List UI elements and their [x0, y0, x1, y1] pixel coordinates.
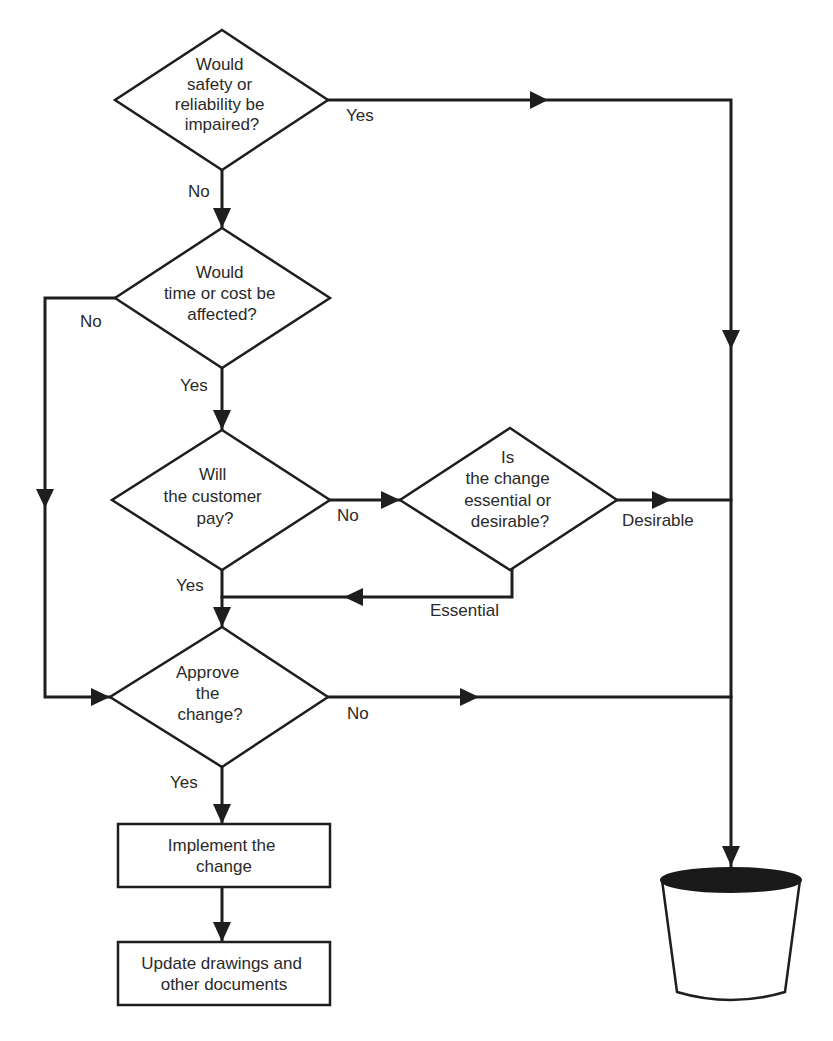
d2-line: time or cost be — [164, 284, 276, 303]
d3b-line: the change — [466, 469, 550, 488]
arrowhead-down — [722, 330, 740, 349]
arrowhead-down — [36, 489, 54, 508]
connector-d3b-essential — [222, 570, 512, 597]
label-d1-yes: Yes — [346, 106, 374, 125]
arrowhead-down — [213, 922, 231, 942]
d2-line: affected? — [187, 305, 257, 324]
label-d2-yes: Yes — [180, 376, 208, 395]
d1-line: safety or — [187, 75, 253, 94]
d3b-line: desirable? — [471, 512, 549, 531]
label-d3-no: No — [337, 506, 359, 525]
d3-line: pay? — [197, 509, 234, 528]
d4-line: the — [196, 684, 220, 703]
d1-line: reliability be — [175, 95, 265, 114]
label-d4-yes: Yes — [170, 773, 198, 792]
d4-line: change? — [177, 705, 242, 724]
d3-line: the customer — [164, 487, 263, 506]
flowchart: Would safety or reliability be impaired?… — [0, 0, 833, 1041]
arrowhead-right — [652, 491, 671, 509]
box1-line: change — [196, 857, 252, 876]
process-implement-change — [118, 824, 330, 887]
label-d3b-essential: Essential — [430, 601, 499, 620]
connector-d2-no — [45, 298, 115, 697]
label-d4-no: No — [347, 704, 369, 723]
waste-bin-icon — [661, 868, 801, 1000]
label-d3b-desirable: Desirable — [622, 511, 694, 530]
d1-line: impaired? — [185, 115, 260, 134]
arrowhead-down — [213, 410, 231, 430]
d2-line: Would — [196, 263, 244, 282]
arrowhead-down — [213, 607, 231, 627]
label-d2-no: No — [80, 312, 102, 331]
label-d3-yes: Yes — [176, 576, 204, 595]
arrowhead-right — [530, 91, 548, 109]
process-update-drawings — [118, 942, 330, 1005]
box2-line: Update drawings and — [141, 954, 302, 973]
arrowhead-down — [722, 846, 740, 866]
arrowhead-down — [213, 804, 231, 824]
arrowhead-left — [344, 588, 363, 606]
box1-line: Implement the — [168, 836, 276, 855]
arrowhead-right — [381, 491, 400, 509]
arrowhead-right — [91, 688, 110, 706]
label-d1-no: No — [188, 182, 210, 201]
d4-line: Approve — [176, 663, 239, 682]
arrowhead-right — [460, 688, 479, 706]
arrowhead-down — [213, 208, 231, 228]
d3b-line: essential or — [464, 491, 551, 510]
d1-line: Would — [196, 55, 244, 74]
box2-line: other documents — [161, 975, 288, 994]
d3-line: Will — [199, 465, 226, 484]
d3b-line: Is — [501, 448, 514, 467]
